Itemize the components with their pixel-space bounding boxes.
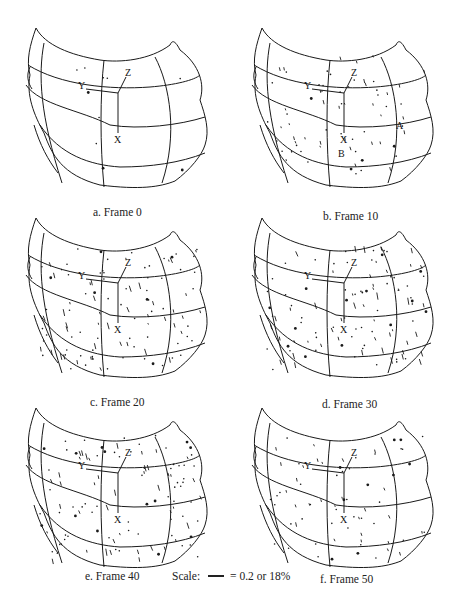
axis-y-label: Y: [304, 80, 311, 91]
wireframe-surface: XYZ: [0, 195, 226, 385]
caption-frame-40: e. Frame 40: [85, 570, 140, 582]
axis-y-label: Y: [78, 80, 85, 91]
point-label-b: B: [338, 148, 345, 159]
panel-frame-30: XYZ: [226, 195, 452, 385]
wireframe-surface: XYZ: [0, 385, 226, 575]
axis-x-label: X: [114, 514, 122, 525]
caption-frame-20: c. Frame 20: [90, 396, 145, 408]
caption-frame-30: d. Frame 30: [322, 398, 377, 410]
wireframe-surface: XYZAB: [226, 5, 452, 195]
axis-y-label: Y: [304, 270, 311, 281]
axis-z-label: Z: [125, 447, 131, 458]
panel-frame-50: XYZ: [226, 385, 452, 575]
axis-y-label: Y: [304, 460, 311, 471]
panel-frame-10: XYZAB: [226, 5, 452, 195]
axis-y-label: Y: [78, 460, 85, 471]
scale-bar-icon: [208, 575, 224, 577]
axis-x-label: X: [114, 324, 122, 335]
marker-points: [40, 248, 200, 370]
panel-frame-40: XYZ: [0, 385, 226, 575]
caption-frame-10: b. Frame 10: [323, 210, 378, 222]
marker-points: [266, 246, 427, 370]
marker-points: [39, 435, 201, 564]
axis-x-label: X: [340, 134, 348, 145]
caption-frame-50: f. Frame 50: [320, 573, 373, 585]
axis-y-label: Y: [78, 270, 85, 281]
scale-legend: Scale: = 0.2 or 18%: [172, 570, 290, 582]
axis-z-label: Z: [351, 447, 357, 458]
axis-x-label: X: [340, 324, 348, 335]
wireframe-surface: XYZ: [0, 5, 226, 195]
marker-points: [267, 55, 425, 174]
panel-frame-0: XYZ: [0, 5, 226, 195]
scale-label: Scale:: [172, 570, 200, 582]
marker-points: [76, 67, 184, 171]
wireframe-surface: XYZ: [226, 195, 452, 385]
panel-frame-20: XYZ: [0, 195, 226, 385]
axis-z-label: Z: [351, 257, 357, 268]
axis-z-label: Z: [351, 67, 357, 78]
axis-x-label: X: [340, 514, 348, 525]
axis-z-label: Z: [125, 67, 131, 78]
caption-frame-0: a. Frame 0: [93, 206, 142, 218]
scale-value: = 0.2 or 18%: [230, 570, 290, 582]
wireframe-surface: XYZ: [226, 385, 452, 575]
axis-x-label: X: [114, 134, 122, 145]
